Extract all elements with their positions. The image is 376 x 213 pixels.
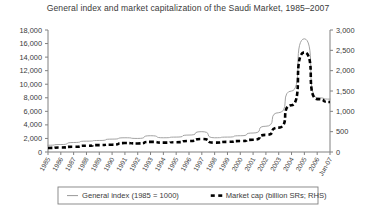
x-axis-tick-label: 1988 [76, 156, 90, 172]
x-axis-tick-label: 1996 [179, 156, 193, 172]
right-axis-tick-label: 3,000 [336, 26, 355, 35]
left-axis-tick-label: 8,000 [24, 93, 43, 102]
x-axis-tick-label: Jun-07 [317, 156, 333, 177]
x-axis-tick-label: 1987 [64, 156, 78, 172]
left-axis-tick-label: 10,000 [19, 80, 42, 89]
x-axis-tick-label: 2002 [256, 156, 270, 172]
series-line-0 [48, 39, 330, 145]
x-axis-tick-label: 1985 [38, 156, 52, 172]
series-plot-area [48, 39, 330, 148]
x-axis-tick-label: 1998 [205, 156, 219, 172]
right-axis-tick-label: 1,000 [336, 107, 355, 116]
left-axis: 02,0004,0006,0008,00010,00012,00014,0001… [19, 26, 48, 157]
left-axis-tick-label: 2,000 [24, 134, 43, 143]
right-axis-tick-label: 0 [336, 148, 340, 157]
x-axis-tick-label: 1991 [115, 156, 129, 172]
left-axis-tick-label: 14,000 [19, 53, 42, 62]
x-axis-tick-label: 1989 [89, 156, 103, 172]
x-axis-tick-label: 1990 [102, 156, 116, 172]
x-axis-tick-label: 1995 [166, 156, 180, 172]
x-axis-tick-label: 1997 [192, 156, 206, 172]
x-axis-tick-label: 1993 [141, 156, 155, 172]
x-axis-tick-label: 1999 [217, 156, 231, 172]
right-axis-tick-label: 500 [336, 127, 348, 136]
x-axis-tick-label: 1994 [153, 156, 167, 172]
right-axis-tick-label: 1,500 [336, 87, 355, 96]
left-axis-tick-label: 16,000 [19, 39, 42, 48]
right-axis: 05001,0001,5002,0002,5003,000 [330, 26, 355, 157]
left-axis-tick-label: 4,000 [24, 120, 43, 129]
legend-label: Market cap (billion SRs; RHS) [226, 191, 327, 200]
x-axis-tick-label: 2000 [230, 156, 244, 172]
left-axis-tick-label: 18,000 [19, 26, 42, 35]
x-axis-tick-label: 2005 [294, 156, 308, 172]
x-axis-tick-label: 1992 [128, 156, 142, 172]
left-axis-tick-label: 6,000 [24, 107, 43, 116]
x-axis: 1985198619871988198919901991199219931994… [38, 152, 334, 177]
x-axis-tick-label: 2004 [282, 156, 296, 172]
x-axis-tick-label: 1986 [51, 156, 65, 172]
legend-label: General index (1985 = 1000) [82, 191, 179, 200]
right-axis-tick-label: 2,500 [336, 46, 355, 55]
chart-legend: General index (1985 = 1000)Market cap (b… [58, 187, 327, 204]
series-line-1 [48, 52, 330, 148]
left-axis-tick-label: 12,000 [19, 66, 42, 75]
right-axis-tick-label: 2,000 [336, 66, 355, 75]
x-axis-tick-label: 2003 [269, 156, 283, 172]
chart-canvas: 02,0004,0006,0008,00010,00012,00014,0001… [0, 0, 376, 213]
left-axis-tick-label: 0 [38, 148, 42, 157]
chart-container: General index and market capitalization … [0, 0, 376, 213]
x-axis-tick-label: 2001 [243, 156, 257, 172]
